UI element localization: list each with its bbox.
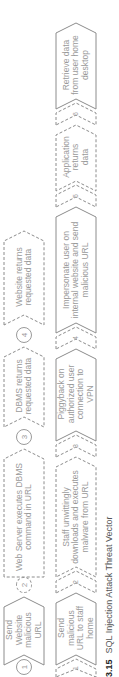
step-impersonate-user: Impersonate user on internal website and… — [56, 207, 96, 333]
step-piggyback-vpn: Piggyback on authorized user connection … — [56, 349, 96, 441]
step-send-website-malicious-url: Send Website malicious URL — [4, 597, 44, 665]
step-website-returns-data: Website returns requested data — [4, 231, 44, 325]
step-send-malicious-url-staff: Send malicious URL to staff home — [56, 593, 96, 665]
figure-title: SQL Injection Attack Threat Vector — [104, 516, 114, 653]
diagram-canvas: 1 Send Website malicious URL 2 Web Serve… — [0, 0, 119, 677]
step-number-badge: 4 — [16, 327, 32, 343]
step-number-badge: 3 — [16, 429, 32, 445]
figure-caption: 3.15SQL Injection Attack Threat Vector — [104, 516, 118, 677]
step-retrieve-data: Retrieve data from user home desktop — [56, 23, 96, 109]
step-staff-downloads-malware: Staff unwittingly downloads and executes… — [56, 457, 96, 577]
step-dbms-returns-data: DBMS returns requested data — [4, 347, 44, 427]
step-application-returns-data: Application returns data — [56, 125, 96, 191]
figure-number: 3.15 — [104, 659, 114, 677]
step-web-server-executes: Web Server executes DBMS command in URL — [4, 449, 44, 577]
step-number-badge: 2 — [16, 577, 32, 593]
